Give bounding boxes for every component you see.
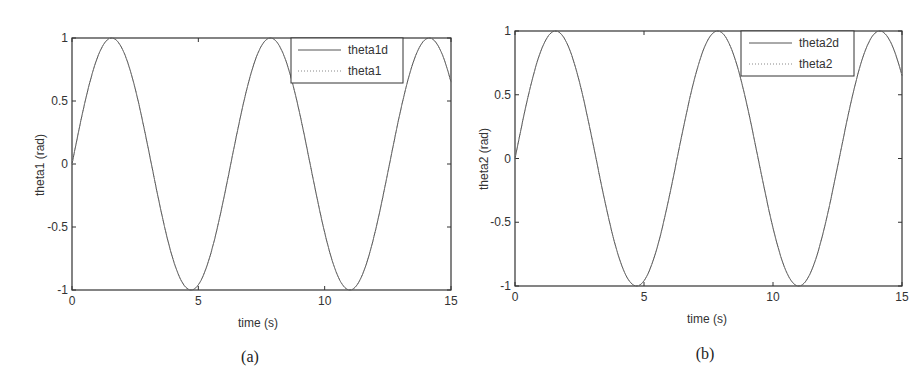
x-axis-label-b: time (s) — [687, 312, 727, 326]
y-tick-label: 0.5 — [494, 88, 511, 102]
legend-label-theta2: theta2 — [799, 57, 833, 71]
caption-a: (a) — [241, 348, 259, 366]
legend-label-theta1d: theta1d — [348, 43, 388, 57]
legend-label-theta1: theta1 — [348, 64, 382, 78]
x-tick-label: 0 — [512, 290, 519, 304]
y-tick-label: 1 — [504, 24, 511, 38]
legend-label-theta2d: theta2d — [799, 36, 839, 50]
y-axis-label-a: theta1 (rad) — [33, 134, 47, 196]
x-tick-label: 10 — [318, 294, 332, 308]
y-tick-label: 1 — [61, 31, 68, 45]
x-tick-label: 15 — [895, 290, 909, 304]
y-axis-label-b: theta2 (rad) — [477, 128, 491, 190]
x-tick-label: 10 — [766, 290, 780, 304]
y-tick-label: -0.5 — [490, 215, 511, 229]
x-axis-label-a: time (s) — [238, 316, 278, 330]
x-tick-label: 0 — [69, 294, 76, 308]
legend-a: theta1d theta1 — [291, 38, 403, 83]
figure: 051015-1-0.500.51 theta1d theta1 time (s… — [0, 0, 923, 382]
plot-b: 051015-1-0.500.51 theta2d theta2 time (s… — [477, 24, 909, 363]
x-tick-label: 15 — [444, 294, 458, 308]
y-tick-label: -1 — [57, 283, 68, 297]
legend-b: theta2d theta2 — [741, 31, 854, 76]
y-tick-label: -1 — [500, 279, 511, 293]
y-tick-label: 0.5 — [51, 94, 68, 108]
y-tick-label: 0 — [61, 157, 68, 171]
y-tick-label: -0.5 — [47, 220, 68, 234]
x-tick-label: 5 — [195, 294, 202, 308]
plot-a: 051015-1-0.500.51 theta1d theta1 time (s… — [33, 31, 458, 366]
y-tick-label: 0 — [504, 152, 511, 166]
x-tick-label: 5 — [641, 290, 648, 304]
caption-b: (b) — [696, 345, 715, 363]
